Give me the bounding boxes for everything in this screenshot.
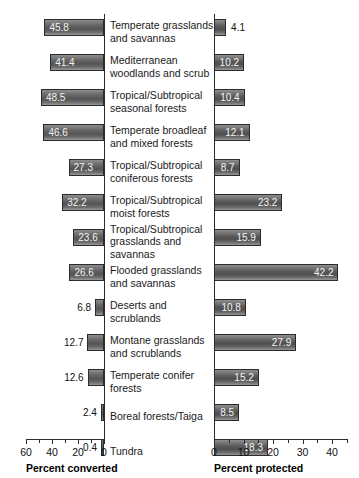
chart-row: 26.6Flooded grasslandsand savannas42.2 bbox=[0, 259, 359, 294]
axis-tick bbox=[26, 439, 27, 444]
right-axis: 010203040 Percent protected bbox=[210, 439, 359, 478]
protected-value-label: 8.7 bbox=[221, 163, 235, 173]
left-axis-title: Percent converted bbox=[26, 462, 118, 474]
category-label-line: Temperate broadleaf bbox=[110, 124, 214, 137]
converted-bar[interactable]: 41.4 bbox=[50, 54, 104, 71]
protected-bar[interactable]: 15.9 bbox=[214, 229, 261, 246]
converted-value-label: 45.8 bbox=[49, 23, 68, 33]
axis-tick-label: 0 bbox=[101, 446, 107, 458]
converted-value-label: 2.4 bbox=[83, 404, 97, 421]
converted-bar-cell: 41.4 bbox=[0, 49, 104, 84]
chart-row: 32.2Tropical/Subtropicalmoist forests23.… bbox=[0, 189, 359, 224]
category-label-line: Flooded grasslands bbox=[110, 264, 214, 277]
converted-bar[interactable]: 48.5 bbox=[41, 89, 104, 106]
right-axis-title: Percent protected bbox=[214, 462, 303, 474]
converted-bar[interactable]: 32.2 bbox=[62, 194, 104, 211]
chart-row: 2.4Boreal forests/Taiga8.5 bbox=[0, 399, 359, 434]
protected-value-label: 23.2 bbox=[258, 198, 277, 208]
category-label-line: woodlands and scrub bbox=[110, 67, 214, 80]
chart-row: 48.5Tropical/Subtropicalseasonal forests… bbox=[0, 84, 359, 119]
converted-value-label: 48.5 bbox=[46, 93, 65, 103]
axis-minor-tick bbox=[65, 439, 66, 443]
chart-row: 27.3Tropical/Subtropicalconiferous fores… bbox=[0, 154, 359, 189]
converted-bar-cell: 26.6 bbox=[0, 259, 104, 294]
category-label-line: and scrublands bbox=[110, 347, 214, 360]
category-label: Temperate broadleafand mixed forests bbox=[110, 119, 214, 154]
protected-bar[interactable]: 12.1 bbox=[214, 124, 250, 141]
converted-bar[interactable] bbox=[95, 299, 104, 316]
converted-bar-cell: 2.4 bbox=[0, 399, 104, 434]
protected-value-label: 27.9 bbox=[272, 338, 291, 348]
converted-value-label: 27.3 bbox=[74, 163, 93, 173]
protected-bar-cell: 8.5 bbox=[214, 399, 359, 434]
category-label: Montane grasslandsand scrublands bbox=[110, 329, 214, 364]
converted-bar[interactable]: 27.3 bbox=[69, 159, 104, 176]
protected-value-label: 15.2 bbox=[234, 373, 253, 383]
axis-tick bbox=[303, 439, 304, 444]
axis-tick-label: 40 bbox=[46, 446, 58, 458]
chart-rows: 45.8Temperate grasslandsand savannas4.14… bbox=[0, 14, 359, 469]
category-label: Tropical/Subtropicalconiferous forests bbox=[110, 154, 214, 189]
category-label: Tropical/Subtropicalgrasslands and savan… bbox=[110, 224, 214, 259]
protected-value-label: 42.2 bbox=[314, 268, 333, 278]
category-label-line: Montane grasslands bbox=[110, 334, 214, 347]
protected-bar-cell: 12.1 bbox=[214, 119, 359, 154]
category-label: Flooded grasslandsand savannas bbox=[110, 259, 214, 294]
category-label: Temperate grasslandsand savannas bbox=[110, 14, 214, 49]
protected-bar[interactable]: 10.4 bbox=[214, 89, 245, 106]
axis-tick-label: 30 bbox=[297, 446, 309, 458]
chart-row: 45.8Temperate grasslandsand savannas4.1 bbox=[0, 14, 359, 49]
converted-value-label: 6.8 bbox=[77, 299, 91, 316]
axis-tick bbox=[78, 439, 79, 444]
axis-tick bbox=[214, 439, 215, 444]
axis-tick-label: 20 bbox=[72, 446, 84, 458]
category-label-line: Tropical/Subtropical bbox=[110, 159, 214, 172]
chart-row: 46.6Temperate broadleafand mixed forests… bbox=[0, 119, 359, 154]
axis-tick-label: 40 bbox=[326, 446, 338, 458]
converted-bar[interactable]: 45.8 bbox=[44, 19, 104, 36]
category-label-line: coniferous forests bbox=[110, 172, 214, 185]
axis-minor-tick bbox=[39, 439, 40, 443]
category-label-line: seasonal forests bbox=[110, 102, 214, 115]
protected-bar-cell: 10.4 bbox=[214, 84, 359, 119]
category-label-line: and savannas bbox=[110, 277, 214, 290]
protected-bar-cell: 4.1 bbox=[214, 14, 359, 49]
protected-bar[interactable]: 8.7 bbox=[214, 159, 240, 176]
right-axis-line bbox=[214, 439, 347, 440]
protected-bar-cell: 27.9 bbox=[214, 329, 359, 364]
converted-value-label: 23.6 bbox=[78, 233, 97, 243]
protected-bar-cell: 15.2 bbox=[214, 364, 359, 399]
protected-bar[interactable]: 10.8 bbox=[214, 299, 246, 316]
protected-bar[interactable]: 10.2 bbox=[214, 54, 244, 71]
protected-bar[interactable]: 23.2 bbox=[214, 194, 282, 211]
axis-minor-tick bbox=[258, 439, 259, 443]
protected-bar[interactable]: 27.9 bbox=[214, 334, 296, 351]
category-label-line: Boreal forests/Taiga bbox=[110, 410, 214, 423]
category-label-line: Deserts and scrublands bbox=[110, 299, 214, 324]
converted-bar[interactable]: 26.6 bbox=[69, 264, 104, 281]
axis-tick-label: 0 bbox=[211, 446, 217, 458]
category-label: Temperate coniferforests bbox=[110, 364, 214, 399]
protected-bar[interactable] bbox=[214, 19, 226, 36]
category-label: Mediterraneanwoodlands and scrub bbox=[110, 49, 214, 84]
converted-bar[interactable] bbox=[87, 334, 104, 351]
converted-bar-cell: 12.7 bbox=[0, 329, 104, 364]
protected-bar-cell: 42.2 bbox=[214, 259, 359, 294]
protected-bar[interactable]: 15.2 bbox=[214, 369, 259, 386]
protected-bar[interactable]: 8.5 bbox=[214, 404, 239, 421]
converted-bar[interactable] bbox=[101, 404, 104, 421]
category-label-line: forests bbox=[110, 382, 214, 395]
left-axis: 6040200 Percent converted bbox=[0, 439, 110, 478]
converted-bar[interactable] bbox=[88, 369, 104, 386]
protected-value-label: 15.9 bbox=[236, 233, 255, 243]
axis-tick bbox=[332, 439, 333, 444]
category-label: Tropical/Subtropicalseasonal forests bbox=[110, 84, 214, 119]
converted-bar[interactable]: 46.6 bbox=[43, 124, 104, 141]
axis-tick bbox=[244, 439, 245, 444]
chart-row: 12.7Montane grasslandsand scrublands27.9 bbox=[0, 329, 359, 364]
converted-bar[interactable]: 23.6 bbox=[73, 229, 104, 246]
protected-value-label: 10.8 bbox=[221, 303, 240, 313]
axis-minor-tick bbox=[317, 439, 318, 443]
category-label-line: and mixed forests bbox=[110, 137, 214, 150]
protected-bar[interactable]: 42.2 bbox=[214, 264, 338, 281]
